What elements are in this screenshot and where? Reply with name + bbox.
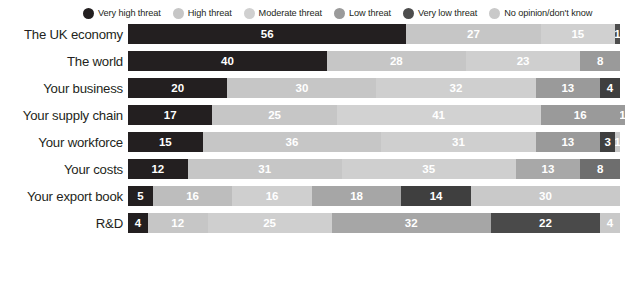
chart-row: The UK economy5627151 [0, 24, 629, 44]
bar-segment-value: 35 [422, 159, 435, 179]
bar-segment-value: 16 [574, 105, 587, 125]
bar-segment[interactable]: 22 [491, 213, 600, 233]
legend-item-label: No opinion/don't know [504, 8, 592, 19]
bar-segment-value: 28 [390, 51, 403, 71]
bar-segment[interactable]: 35 [342, 159, 516, 179]
bar-segment-value: 1 [615, 24, 620, 44]
legend-dot-icon [403, 8, 414, 19]
bar-segment[interactable]: 12 [148, 213, 208, 233]
bar-segment-value: 13 [561, 78, 574, 98]
bar-segment-value: 4 [135, 213, 141, 233]
chart-row: Your business203032134 [0, 78, 629, 98]
chart-rows: The UK economy5627151The world4028238You… [0, 22, 629, 233]
legend-item[interactable]: No opinion/don't know [489, 8, 592, 19]
bar-segment-value: 22 [539, 213, 552, 233]
bar-segment-value: 15 [159, 132, 172, 152]
legend-dot-icon [244, 8, 255, 19]
bar-segment-value: 1 [615, 132, 620, 152]
bar-segment-value: 25 [263, 213, 276, 233]
bar-segment[interactable]: 4 [600, 78, 620, 98]
bar-segment[interactable]: 18 [312, 186, 401, 206]
bar-segment[interactable]: 30 [471, 186, 620, 206]
bar-segment[interactable]: 23 [466, 51, 580, 71]
bar-segment[interactable]: 31 [381, 132, 535, 152]
bar-segment[interactable]: 12 [128, 159, 188, 179]
legend-item[interactable]: Low threat [334, 8, 391, 19]
bar-segment[interactable]: 14 [401, 186, 471, 206]
bar-segment[interactable]: 56 [128, 24, 406, 44]
category-label: Your supply chain [0, 108, 128, 123]
bar-segment[interactable]: 4 [128, 213, 148, 233]
legend-dot-icon [489, 8, 500, 19]
bar-segment-value: 40 [221, 51, 234, 71]
bar-segment[interactable]: 1 [615, 132, 620, 152]
bar-segment-value: 16 [266, 186, 279, 206]
bar-segment[interactable]: 1 [615, 24, 620, 44]
bar-segment[interactable]: 13 [516, 159, 581, 179]
legend-dot-icon [334, 8, 345, 19]
legend-item[interactable]: High threat [173, 8, 232, 19]
stacked-bar: 172541161 [128, 105, 625, 125]
bar-segment-value: 17 [164, 105, 177, 125]
bar-segment-value: 18 [350, 186, 363, 206]
bar-segment[interactable]: 3 [600, 132, 615, 152]
bar-segment-value: 4 [607, 78, 613, 98]
bar-segment[interactable]: 32 [376, 78, 535, 98]
bar-segment[interactable]: 13 [536, 78, 601, 98]
chart-row: The world4028238 [0, 51, 629, 71]
stacked-bar: 4122532224 [128, 213, 625, 233]
category-label: The UK economy [0, 27, 128, 42]
bar-segment[interactable]: 36 [203, 132, 382, 152]
stacked-bar: 203032134 [128, 78, 625, 98]
chart-row: Your supply chain172541161 [0, 105, 629, 125]
bar-segment-value: 1 [620, 105, 625, 125]
bar-segment-value: 30 [296, 78, 309, 98]
stacked-bar: 4028238 [128, 51, 625, 71]
bar-segment-value: 32 [450, 78, 463, 98]
bar-segment[interactable]: 32 [332, 213, 491, 233]
chart-row: Your export book51616181430 [0, 186, 629, 206]
bar-segment[interactable]: 25 [212, 105, 336, 125]
category-label: Your workforce [0, 135, 128, 150]
bar-segment-value: 41 [432, 105, 445, 125]
bar-segment-value: 16 [186, 186, 199, 206]
category-label: Your costs [0, 162, 128, 177]
bar-segment[interactable]: 5 [128, 186, 153, 206]
bar-segment-value: 5 [137, 186, 143, 206]
bar-segment-value: 4 [607, 213, 613, 233]
bar-segment[interactable]: 16 [153, 186, 233, 206]
legend-item[interactable]: Moderate threat [244, 8, 322, 19]
bar-segment[interactable]: 41 [337, 105, 541, 125]
bar-segment[interactable]: 15 [128, 132, 203, 152]
legend-item-label: High threat [188, 8, 232, 19]
stacked-bar-chart: Very high threatHigh threatModerate thre… [0, 0, 629, 283]
bar-segment[interactable]: 8 [580, 159, 620, 179]
stacked-bar: 51616181430 [128, 186, 625, 206]
bar-segment[interactable]: 15 [541, 24, 616, 44]
bar-segment-value: 31 [452, 132, 465, 152]
bar-segment-value: 56 [261, 24, 274, 44]
bar-segment-value: 27 [467, 24, 480, 44]
legend-item-label: Very high threat [98, 8, 161, 19]
bar-segment[interactable]: 25 [208, 213, 332, 233]
bar-segment[interactable]: 16 [541, 105, 621, 125]
bar-segment[interactable]: 1 [620, 105, 625, 125]
legend-item-label: Moderate threat [259, 8, 322, 19]
bar-segment[interactable]: 28 [327, 51, 466, 71]
bar-segment[interactable]: 20 [128, 78, 227, 98]
chart-row: Your workforce1536311331 [0, 132, 629, 152]
bar-segment[interactable]: 17 [128, 105, 212, 125]
bar-segment-value: 8 [597, 159, 603, 179]
bar-segment[interactable]: 8 [580, 51, 620, 71]
legend-item[interactable]: Very low threat [403, 8, 477, 19]
bar-segment[interactable]: 4 [600, 213, 620, 233]
legend-item[interactable]: Very high threat [83, 8, 161, 19]
bar-segment[interactable]: 31 [188, 159, 342, 179]
legend-dot-icon [83, 8, 94, 19]
bar-segment[interactable]: 16 [232, 186, 312, 206]
bar-segment[interactable]: 30 [227, 78, 376, 98]
bar-segment[interactable]: 40 [128, 51, 327, 71]
bar-segment[interactable]: 13 [536, 132, 601, 152]
bar-segment[interactable]: 27 [406, 24, 540, 44]
chart-row: R&D4122532224 [0, 213, 629, 233]
